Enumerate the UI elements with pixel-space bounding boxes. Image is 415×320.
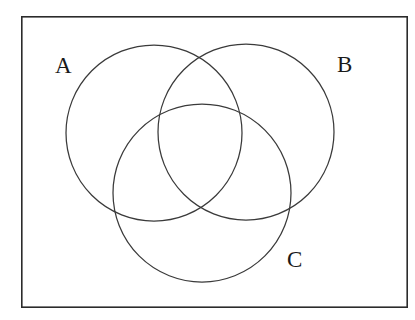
set-label-a: A <box>55 54 72 77</box>
venn-diagram-canvas <box>0 0 415 320</box>
venn-diagram-figure: A B C <box>0 0 415 320</box>
set-label-b: B <box>337 53 352 76</box>
set-label-c: C <box>287 248 302 271</box>
